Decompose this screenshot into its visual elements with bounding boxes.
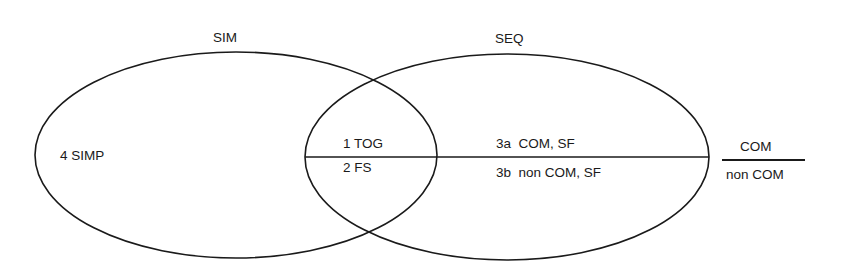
region-tog-label: 1 TOG: [343, 136, 383, 151]
legend-numerator-label: COM: [740, 139, 772, 154]
legend-denominator-label: non COM: [726, 167, 784, 182]
sim-set-label: SIM: [213, 30, 237, 45]
region-simp-label: 4 SIMP: [60, 148, 104, 163]
seq-set-label: SEQ: [495, 31, 524, 46]
venn-diagram: SIM SEQ 4 SIMP 1 TOG 2 FS 3a COM, SF 3b …: [0, 0, 841, 277]
region-noncom-sf-label: 3b non COM, SF: [496, 165, 601, 180]
region-com-sf-label: 3a COM, SF: [496, 136, 575, 151]
region-fs-label: 2 FS: [343, 160, 372, 175]
